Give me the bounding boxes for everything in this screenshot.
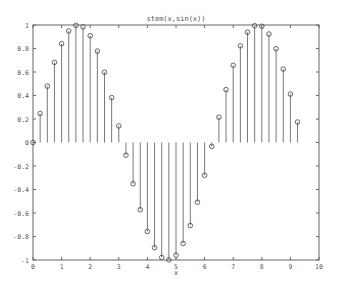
x-tick-label: 7	[231, 263, 235, 271]
stem-plot: stem(x,sin(x)) 012345678910-1-0.8-0.6-0.…	[0, 0, 339, 287]
x-tick-label: 3	[117, 263, 121, 271]
y-tick-label: -0.2	[13, 163, 29, 171]
y-tick-label: 0.6	[17, 69, 29, 77]
x-tick-label: 0	[31, 263, 35, 271]
x-axis-label: x	[174, 269, 178, 277]
x-tick-label: 2	[88, 263, 92, 271]
y-tick-label: -1	[21, 257, 29, 265]
y-tick-label: -0.4	[13, 186, 29, 194]
x-tick-label: 1	[60, 263, 64, 271]
y-tick-label: -0.6	[13, 210, 29, 218]
x-tick-label: 6	[203, 263, 207, 271]
y-tick-label: 1	[25, 22, 29, 30]
y-tick-label: -0.8	[13, 233, 29, 241]
x-tick-label: 8	[260, 263, 264, 271]
stem-series	[31, 23, 300, 262]
y-tick-label: 0	[25, 139, 29, 147]
x-tick-label: 10	[315, 263, 323, 271]
y-tick-label: 0.4	[17, 92, 29, 100]
x-tick-label: 9	[288, 263, 292, 271]
y-tick-label: 0.2	[17, 116, 29, 124]
chart-title: stem(x,sin(x))	[146, 15, 205, 23]
x-tick-label: 4	[145, 263, 149, 271]
y-tick-label: 0.8	[17, 45, 29, 53]
